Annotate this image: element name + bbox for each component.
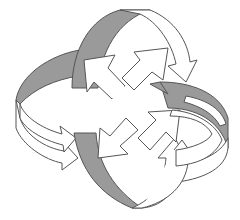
curved-arrow-left bbox=[16, 50, 80, 170]
curved-arrow-bottom bbox=[74, 133, 196, 208]
diagram-canvas: Circular and outward arrows bbox=[0, 0, 240, 220]
straight-arrow-down-left bbox=[98, 118, 138, 158]
